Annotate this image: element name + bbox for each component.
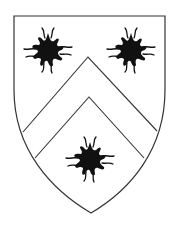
coat-of-arms (0, 0, 177, 228)
shield-graphic (0, 0, 177, 228)
